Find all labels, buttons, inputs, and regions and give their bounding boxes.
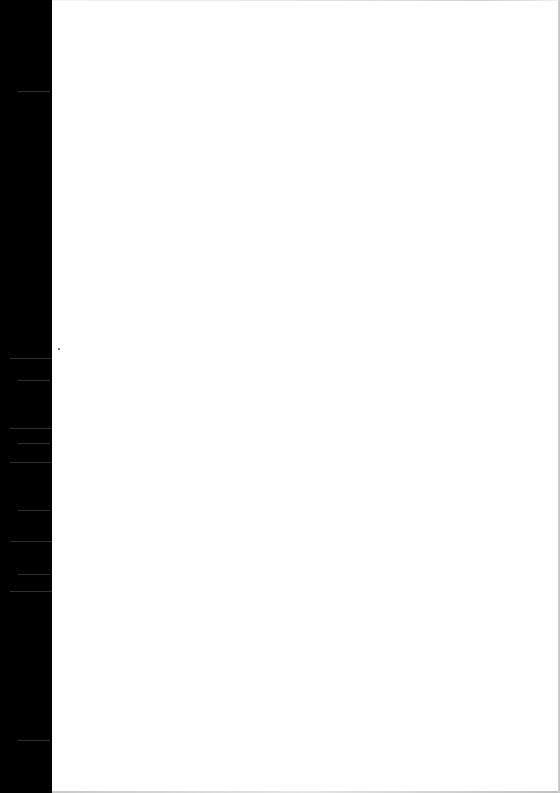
scan-binding-strip bbox=[0, 0, 52, 793]
scan-streak bbox=[10, 541, 52, 542]
scan-speck bbox=[58, 348, 60, 350]
scan-streak bbox=[18, 510, 50, 511]
scan-streak bbox=[10, 591, 52, 592]
scan-streak bbox=[18, 91, 50, 92]
blank-page bbox=[52, 0, 558, 793]
scan-streak bbox=[18, 740, 50, 741]
scan-streak bbox=[18, 574, 50, 575]
scan-streak bbox=[10, 428, 52, 429]
scan-streak bbox=[10, 462, 52, 463]
scan-streak bbox=[18, 443, 50, 444]
scan-streak bbox=[18, 380, 50, 381]
scan-streak bbox=[10, 358, 52, 359]
page-top-edge bbox=[52, 0, 560, 1]
